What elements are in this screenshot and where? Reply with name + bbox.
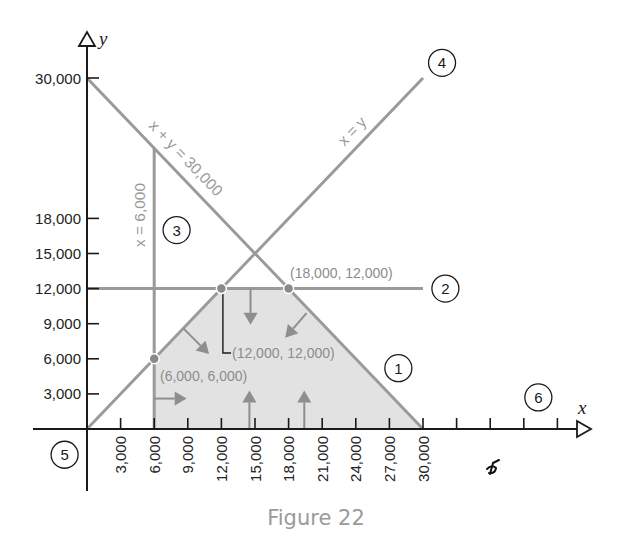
constraint-line-label-3: x = 6,000 (131, 183, 148, 248)
y-tick-label: 12,000 (35, 280, 81, 297)
corner-point-label: (12,000, 12,000) (232, 345, 335, 361)
constraint-marker-2: 2 (432, 275, 459, 302)
y-tick-label: 30,000 (35, 70, 81, 87)
figure-caption: Figure 22 (267, 506, 365, 530)
x-tick-label: 12,000 (213, 436, 230, 482)
corner-point-label: (6,000, 6,000) (160, 368, 247, 384)
y-tick-label: 18,000 (35, 210, 81, 227)
figure: 3,0006,0009,00012,00015,00018,00021,0002… (0, 0, 619, 550)
y-tick-label: 15,000 (35, 245, 81, 262)
y-tick-label: 9,000 (43, 315, 81, 332)
x-tick-label: 9,000 (179, 436, 196, 474)
constraint-marker-3: 3 (163, 217, 190, 244)
x-tick-label: 3,000 (112, 436, 129, 474)
marker-number: 1 (394, 360, 402, 377)
marker-number: 2 (441, 280, 449, 297)
x-tick-label: 18,000 (280, 436, 297, 482)
lp-feasible-region-chart: 3,0006,0009,00012,00015,00018,00021,0002… (0, 0, 619, 550)
constraint-marker-5: 5 (51, 441, 78, 468)
constraint-marker-1: 1 (385, 355, 412, 382)
x-tick-label: 6,000 (146, 436, 163, 474)
x-tick-label: 21,000 (314, 436, 331, 482)
y-tick-label: 6,000 (43, 350, 81, 367)
y-tick-label: 3,000 (43, 385, 81, 402)
x-tick-label: 30,000 (415, 436, 432, 482)
marker-number: 6 (534, 389, 542, 406)
marker-number: 3 (172, 222, 180, 239)
y-axis-label: y (97, 28, 108, 49)
corner-point-label: (18,000, 12,000) (290, 265, 393, 281)
corner-point (284, 284, 294, 294)
x-tick-label: 24,000 (347, 436, 364, 482)
constraint-marker-6: 6 (525, 384, 552, 411)
marker-number: 5 (60, 446, 68, 463)
constraint-marker-4: 4 (429, 49, 456, 76)
marker-number: 4 (438, 54, 446, 71)
x-tick-label: 15,000 (247, 436, 264, 482)
corner-point (216, 284, 226, 294)
x-axis-label: x (577, 397, 587, 418)
x-tick-label: 27,000 (381, 436, 398, 482)
corner-point (149, 354, 159, 364)
